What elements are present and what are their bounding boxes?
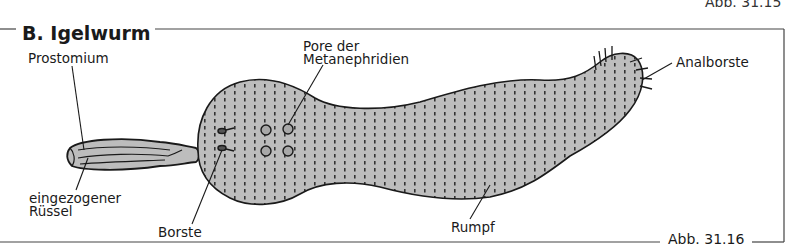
figure-caption: Abb. 31.16 xyxy=(664,231,748,247)
trunk-body xyxy=(190,45,650,215)
label-rumpf: Rumpf xyxy=(451,221,495,234)
label-borste: Borste xyxy=(158,226,202,239)
label-pore-metanephridien: Pore der Metanephridien xyxy=(303,40,409,66)
label-eingezogener-ruessel: eingezogener Rüssel xyxy=(29,192,121,218)
label-analborste: Analborste xyxy=(676,56,749,69)
prostomium-shape xyxy=(67,139,199,170)
label-pore-line2: Metanephridien xyxy=(303,53,409,66)
section-title: B. Igelwurm xyxy=(18,22,155,44)
label-ruessel-line2: Rüssel xyxy=(29,205,121,218)
label-prostomium: Prostomium xyxy=(28,52,109,65)
